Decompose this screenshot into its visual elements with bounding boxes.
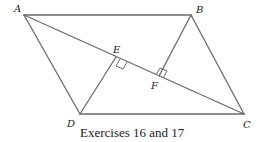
label-b: B — [195, 4, 203, 15]
side-da — [24, 15, 80, 114]
label-e: E — [112, 44, 121, 55]
label-c: C — [243, 119, 251, 130]
diagonal-ac — [24, 15, 244, 114]
side-bc — [191, 15, 244, 114]
label-d: D — [66, 118, 75, 129]
figure-caption: Exercises 16 and 17 — [80, 125, 185, 140]
label-f: F — [150, 80, 159, 91]
segment-de — [80, 57, 116, 114]
parallelogram-diagram: A B C D E F Exercises 16 and 17 — [0, 0, 260, 142]
label-a: A — [13, 3, 21, 14]
segment-bf — [159, 15, 191, 76]
